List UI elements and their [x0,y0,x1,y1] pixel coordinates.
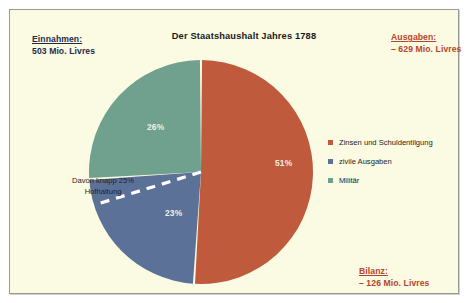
income-label-block: Einnahmen: 503 Mio. Livres [32,34,95,57]
expenses-value: – 629 Mio. Livres [391,44,461,56]
hofhaltung-annotation-line1: Davon knapp 25% [51,176,155,187]
legend: Zinsen und Schuldentilgungzivile Ausgabe… [328,138,468,195]
expenses-heading: Ausgaben: [391,32,461,44]
legend-item-label: zivile Ausgaben [339,157,392,166]
slice-label-militaer: 26% [147,122,164,132]
slice-label-zivile: 23% [165,208,182,218]
legend-swatch-icon [328,140,333,145]
pie-chart [87,58,317,288]
balance-value: – 126 Mio. Livres [359,278,429,290]
legend-item: zivile Ausgaben [328,157,468,166]
balance-heading: Bilanz: [359,266,429,278]
legend-item-label: Militär [339,176,359,185]
legend-swatch-icon [328,178,333,183]
pie-slice [89,60,201,178]
slice-label-zinsen: 51% [275,158,292,168]
expenses-label-block: Ausgaben: – 629 Mio. Livres [391,32,461,55]
figure-canvas: Der Staatshaushalt Jahres 1788 Einnahmen… [0,0,468,303]
legend-item: Zinsen und Schuldentilgung [328,138,468,147]
legend-swatch-icon [328,159,333,164]
pie-slice [195,60,313,284]
legend-item: Militär [328,176,468,185]
income-heading: Einnahmen: [32,34,95,46]
balance-label-block: Bilanz: – 126 Mio. Livres [359,266,429,289]
hofhaltung-annotation-line2: Hofhaltung [51,187,155,198]
income-value: 503 Mio. Livres [32,46,95,58]
hofhaltung-annotation: Davon knapp 25% Hofhaltung [51,176,155,197]
pie-chart-svg [87,58,317,288]
figure-frame: Der Staatshaushalt Jahres 1788 Einnahmen… [9,9,459,294]
legend-item-label: Zinsen und Schuldentilgung [339,138,433,147]
